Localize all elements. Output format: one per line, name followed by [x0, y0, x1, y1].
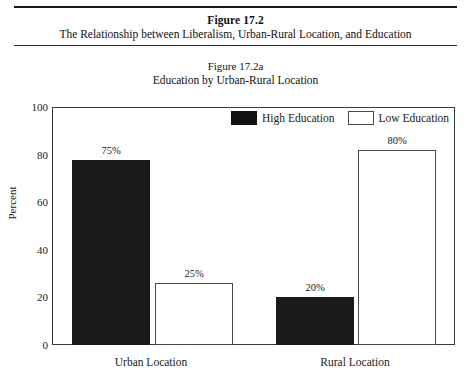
y-tick-label-100: 100 [14, 102, 48, 113]
bar-rural-low-education [358, 150, 436, 345]
figure-number: Figure 17.2 [14, 8, 457, 27]
legend-label-low-education: Low Education [379, 112, 450, 124]
y-tick-label-20: 20 [14, 292, 48, 303]
figure-page: Figure 17.2 The Relationship between Lib… [0, 0, 471, 377]
bar-value-rural-high-education: 20% [276, 283, 354, 294]
legend-item-low-education: Low Education [348, 111, 450, 125]
y-tick-label-40: 40 [14, 244, 48, 255]
chart-legend: High Education Low Education [231, 111, 449, 125]
bar-urban-high-education [72, 160, 150, 345]
legend-label-high-education: High Education [262, 112, 335, 124]
bar-value-urban-low-education: 25% [155, 269, 233, 280]
legend-swatch-high-education-icon [231, 111, 257, 125]
subfigure-number: Figure 17.2a [0, 59, 471, 73]
y-tick-label-60: 60 [14, 197, 48, 208]
subfigure-title: Education by Urban-Rural Location [0, 73, 471, 88]
figure-header: Figure 17.2 The Relationship between Lib… [14, 6, 457, 46]
bar-rural-high-education [276, 297, 354, 345]
subfigure-title-block: Figure 17.2a Education by Urban-Rural Lo… [0, 59, 471, 88]
bar-urban-low-education [155, 283, 233, 345]
x-tick-label-urban-location: Urban Location [71, 357, 231, 369]
y-tick-label-80: 80 [14, 149, 48, 160]
legend-swatch-low-education-icon [348, 111, 374, 125]
bar-value-rural-low-education: 80% [358, 136, 436, 147]
bar-value-urban-high-education: 75% [72, 146, 150, 157]
plot-area: High Education Low Education 75% 25% 20%… [52, 107, 455, 345]
y-tick-label-0: 0 [14, 340, 48, 351]
legend-item-high-education: High Education [231, 111, 335, 125]
header-bottom-rule [14, 45, 457, 46]
figure-caption: The Relationship between Liberalism, Urb… [14, 27, 457, 45]
y-axis-title: Percent [6, 168, 18, 238]
x-tick-label-rural-location: Rural Location [275, 357, 435, 369]
